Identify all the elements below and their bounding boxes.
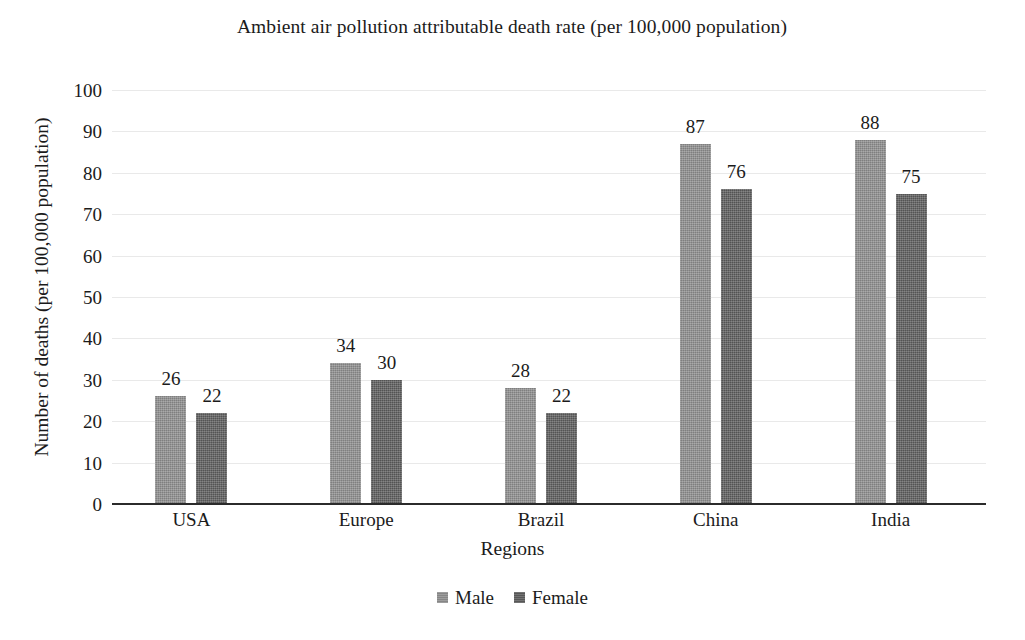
bar-europe-male[interactable] [330,363,361,504]
bar-usa-male[interactable] [155,396,186,504]
x-tick-label-europe: Europe [266,509,466,531]
bar-china-male[interactable] [680,144,711,504]
bar-china-female[interactable] [721,189,752,504]
x-tick-label-india: India [791,509,991,531]
y-tick-label: 60 [48,247,102,266]
y-tick-label: 90 [48,122,102,141]
chart-legend: MaleFemale [0,588,1025,607]
y-tick-label: 30 [48,371,102,390]
legend-swatch-icon [437,592,448,603]
bar-india-male[interactable] [855,140,886,504]
legend-label: Male [455,588,494,607]
y-tick-label: 20 [48,412,102,431]
legend-swatch-icon [514,592,525,603]
bar-europe-female[interactable] [371,380,402,504]
bar-value-label: 30 [357,353,417,372]
bar-india-female[interactable] [896,194,927,505]
bar-value-label: 75 [881,167,941,186]
gridline [112,90,986,91]
bar-usa-female[interactable] [196,413,227,504]
bar-value-label: 88 [840,113,900,132]
y-tick-label: 10 [48,454,102,473]
y-tick-label: 50 [48,288,102,307]
y-tick-label: 40 [48,329,102,348]
bar-brazil-male[interactable] [505,388,536,504]
x-axis-line [112,503,986,505]
plot-area: 26223430282287768875 [112,90,986,504]
chart-title: Ambient air pollution attributable death… [212,14,812,40]
bar-value-label: 28 [491,361,551,380]
y-tick-label: 100 [48,81,102,100]
legend-item-male[interactable]: Male [437,588,494,607]
legend-item-female[interactable]: Female [514,588,588,607]
bar-chart: Ambient air pollution attributable death… [0,0,1025,640]
y-axis-title: Number of deaths (per 100,000 population… [31,77,53,497]
bar-value-label: 22 [532,386,592,405]
x-axis-title: Regions [0,538,1025,560]
legend-label: Female [532,588,588,607]
x-tick-label-usa: USA [91,509,291,531]
bar-value-label: 22 [182,386,242,405]
bar-value-label: 76 [706,162,766,181]
bar-brazil-female[interactable] [546,413,577,504]
y-tick-label: 70 [48,205,102,224]
x-tick-label-china: China [616,509,816,531]
bar-value-label: 87 [665,117,725,136]
y-tick-label: 80 [48,164,102,183]
x-tick-label-brazil: Brazil [441,509,641,531]
